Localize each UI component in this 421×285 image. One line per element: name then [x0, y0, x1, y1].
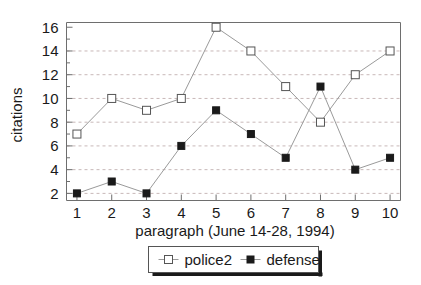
legend-marker-police2 — [165, 256, 173, 264]
x-tick-label-2: 2 — [108, 204, 116, 221]
citations-line-chart: 246810121416 12345678910 citations parag… — [0, 0, 421, 285]
data-point-police2-9 — [351, 71, 359, 79]
data-point-defense-6 — [247, 131, 254, 138]
x-tick-label-4: 4 — [177, 204, 185, 221]
data-point-police2-8 — [316, 118, 324, 126]
data-point-police2-6 — [247, 47, 255, 55]
data-point-police2-10 — [386, 47, 394, 55]
data-point-defense-1 — [73, 190, 80, 197]
data-point-defense-8 — [317, 83, 324, 90]
y-tick-label-16: 16 — [42, 19, 59, 36]
chart-background — [0, 0, 421, 285]
x-tick-label-8: 8 — [316, 204, 324, 221]
y-tick-label-12: 12 — [42, 66, 59, 83]
y-tick-label-14: 14 — [42, 42, 59, 59]
x-tick-label-10: 10 — [382, 204, 399, 221]
x-tick-label-7: 7 — [282, 204, 290, 221]
data-point-defense-5 — [213, 107, 220, 114]
data-point-defense-9 — [352, 166, 359, 173]
x-tick-label-1: 1 — [73, 204, 81, 221]
legend-label-defense: defense — [267, 251, 320, 268]
y-tick-label-6: 6 — [50, 137, 58, 154]
legend-marker-defense — [247, 256, 254, 263]
y-axis-title: citations — [8, 87, 25, 142]
data-point-defense-3 — [143, 190, 150, 197]
data-point-defense-7 — [282, 154, 289, 161]
data-point-defense-4 — [178, 142, 185, 149]
y-tick-label-2: 2 — [50, 185, 58, 202]
data-point-police2-2 — [108, 94, 116, 102]
data-point-police2-7 — [282, 83, 290, 91]
data-point-police2-4 — [177, 94, 185, 102]
data-point-defense-10 — [387, 154, 394, 161]
data-point-defense-2 — [108, 178, 115, 185]
x-tick-label-6: 6 — [247, 204, 255, 221]
y-tick-label-4: 4 — [50, 161, 58, 178]
x-tick-label-3: 3 — [142, 204, 150, 221]
legend-label-police2: police2 — [185, 251, 233, 268]
data-point-police2-1 — [73, 130, 81, 138]
legend-shadow-bottom — [153, 273, 323, 277]
y-tick-label-10: 10 — [42, 90, 59, 107]
chart-legend[interactable]: police2defense — [149, 247, 323, 277]
y-tick-label-8: 8 — [50, 114, 58, 131]
data-point-police2-5 — [212, 23, 220, 31]
x-tick-label-9: 9 — [351, 204, 359, 221]
x-axis-title: paragraph (June 14-28, 1994) — [135, 222, 334, 239]
data-point-police2-3 — [143, 106, 151, 114]
x-tick-label-5: 5 — [212, 204, 220, 221]
chart-container: 246810121416 12345678910 citations parag… — [0, 0, 421, 285]
